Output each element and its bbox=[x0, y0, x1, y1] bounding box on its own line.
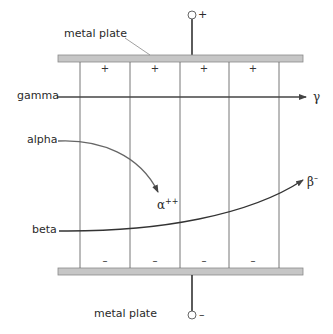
bottom-charge-sign: – bbox=[103, 256, 108, 266]
bottom-plate-label: metal plate bbox=[94, 308, 157, 320]
top-charge-sign: + bbox=[151, 64, 159, 74]
alpha-symbol: α++ bbox=[157, 196, 179, 211]
alpha-ray-path bbox=[58, 141, 158, 192]
top-plate-label: metal plate bbox=[64, 28, 127, 40]
beta-symbol: β– bbox=[307, 173, 318, 188]
top-terminal bbox=[188, 11, 196, 55]
bottom-charge-sign: – bbox=[251, 256, 256, 266]
gamma-symbol: γ bbox=[313, 91, 320, 103]
beta-ray-path bbox=[59, 180, 303, 231]
top-metal-plate bbox=[58, 55, 303, 62]
alpha-label: alpha bbox=[27, 134, 58, 146]
bottom-terminal bbox=[188, 275, 196, 319]
bottom-charge-sign: – bbox=[202, 256, 207, 266]
top-charge-sign: + bbox=[249, 64, 257, 74]
bottom-metal-plate bbox=[58, 268, 303, 275]
top-charge-sign: + bbox=[101, 64, 109, 74]
positive-terminal-icon bbox=[188, 11, 196, 19]
top-terminal-sign: + bbox=[198, 9, 207, 21]
top-charge-sign: + bbox=[200, 64, 208, 74]
field-divider-lines bbox=[80, 62, 279, 268]
negative-terminal-icon bbox=[188, 311, 196, 319]
beta-label: beta bbox=[32, 224, 57, 236]
gamma-label: gamma bbox=[17, 90, 59, 102]
bottom-charge-sign: – bbox=[153, 256, 158, 266]
radiation-deflection-diagram bbox=[0, 0, 333, 334]
bottom-terminal-sign: – bbox=[199, 309, 205, 321]
top-plate-leader-line bbox=[125, 38, 150, 55]
